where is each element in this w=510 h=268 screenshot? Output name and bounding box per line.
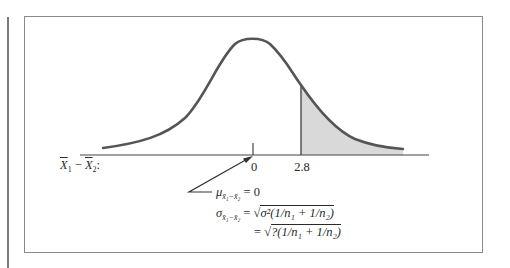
equals-sign: =	[254, 225, 264, 239]
sd-numeric-radicand: ?(1/n₁ + 1/n₂)	[271, 224, 341, 239]
sd-radicand: σ²(1/n₁ + 1/n₂)	[260, 205, 334, 220]
mean-subscript: x̄₁−x̄₂	[222, 192, 240, 201]
tick-label-critical: 2.8	[294, 161, 310, 174]
subscript-2: 2	[93, 165, 97, 174]
shaded-tail-region	[301, 85, 403, 155]
mean-value: = 0	[240, 185, 260, 199]
x-bar-1: X	[60, 158, 68, 172]
sqrt-icon: √	[254, 206, 261, 220]
sd-numeric-formula: = √?(1/n₁ + 1/n₂)	[254, 224, 341, 239]
sd-subscript: x̄₁−x̄₂	[222, 213, 240, 222]
x-bar-2: X	[85, 158, 93, 172]
mean-formula: μx̄₁−x̄₂ = 0	[216, 186, 260, 199]
bell-curve	[103, 39, 403, 149]
colon: :	[97, 158, 100, 172]
minus-sign: −	[72, 158, 85, 172]
subscript-1: 1	[68, 165, 72, 174]
sqrt-icon: √	[264, 225, 271, 239]
axis-variable-label: X1 − X2:	[60, 159, 100, 172]
equals-sign: =	[240, 206, 253, 220]
sd-formula: σx̄₁−x̄₂ = √σ²(1/n₁ + 1/n₂)	[216, 205, 334, 220]
tick-label-zero: 0	[251, 161, 257, 174]
